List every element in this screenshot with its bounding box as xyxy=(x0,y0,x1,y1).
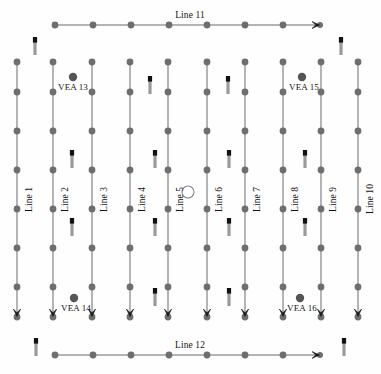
station-node[interactable] xyxy=(280,22,287,29)
station-node[interactable] xyxy=(355,206,362,213)
station-node[interactable] xyxy=(242,128,249,135)
station-node[interactable] xyxy=(165,59,172,66)
station-node[interactable] xyxy=(89,206,96,213)
station-node[interactable] xyxy=(318,206,325,213)
flag-marker[interactable] xyxy=(70,150,74,168)
station-node[interactable] xyxy=(50,128,57,135)
station-node[interactable] xyxy=(165,89,172,96)
station-node[interactable] xyxy=(50,245,57,252)
station-node[interactable] xyxy=(280,59,287,66)
station-node[interactable] xyxy=(204,245,211,252)
survey-line-vertical[interactable] xyxy=(317,59,324,321)
flag-marker[interactable] xyxy=(33,37,37,55)
station-node[interactable] xyxy=(89,284,96,291)
survey-line-horizontal[interactable] xyxy=(52,352,323,359)
survey-line-horizontal[interactable] xyxy=(52,22,323,29)
vea-marker-dot[interactable] xyxy=(296,294,304,302)
vea-marker-dot[interactable] xyxy=(70,294,78,302)
flag-marker[interactable] xyxy=(227,288,231,306)
station-node[interactable] xyxy=(355,89,362,96)
station-node[interactable] xyxy=(89,245,96,252)
station-node[interactable] xyxy=(242,284,249,291)
station-node[interactable] xyxy=(127,167,134,174)
station-node[interactable] xyxy=(128,22,135,29)
station-node[interactable] xyxy=(165,167,172,174)
survey-line-vertical[interactable] xyxy=(49,59,56,321)
station-node[interactable] xyxy=(280,89,287,96)
survey-line-vertical[interactable] xyxy=(241,59,248,321)
flag-marker[interactable] xyxy=(342,338,346,356)
station-node[interactable] xyxy=(90,22,97,29)
station-node[interactable] xyxy=(89,89,96,96)
survey-line-vertical[interactable] xyxy=(203,59,210,321)
station-node[interactable] xyxy=(14,284,21,291)
station-node[interactable] xyxy=(50,167,57,174)
flag-marker[interactable] xyxy=(70,218,74,236)
station-node[interactable] xyxy=(242,245,249,252)
station-node[interactable] xyxy=(242,89,249,96)
station-node[interactable] xyxy=(14,167,21,174)
station-node[interactable] xyxy=(204,128,211,135)
vea-marker-dot[interactable] xyxy=(69,73,77,81)
survey-line-vertical[interactable] xyxy=(164,59,171,321)
station-node[interactable] xyxy=(50,284,57,291)
station-node[interactable] xyxy=(204,167,211,174)
station-node[interactable] xyxy=(204,59,211,66)
flag-marker[interactable] xyxy=(227,150,231,168)
flag-marker[interactable] xyxy=(339,37,343,55)
station-node[interactable] xyxy=(127,245,134,252)
station-node[interactable] xyxy=(127,59,134,66)
station-node[interactable] xyxy=(14,59,21,66)
station-node[interactable] xyxy=(355,245,362,252)
station-node[interactable] xyxy=(89,128,96,135)
survey-line-vertical[interactable] xyxy=(88,59,95,321)
station-node[interactable] xyxy=(165,245,172,252)
station-node[interactable] xyxy=(52,22,59,29)
station-node[interactable] xyxy=(318,284,325,291)
flag-marker[interactable] xyxy=(227,218,231,236)
station-node[interactable] xyxy=(89,59,96,66)
flag-marker[interactable] xyxy=(303,150,307,168)
flag-marker[interactable] xyxy=(153,150,157,168)
station-node[interactable] xyxy=(204,284,211,291)
station-node[interactable] xyxy=(280,206,287,213)
station-node[interactable] xyxy=(50,89,57,96)
survey-line-vertical[interactable] xyxy=(126,59,133,321)
station-node[interactable] xyxy=(242,59,249,66)
station-node[interactable] xyxy=(355,128,362,135)
station-node[interactable] xyxy=(318,245,325,252)
station-node[interactable] xyxy=(280,167,287,174)
survey-line-vertical[interactable] xyxy=(13,59,20,321)
station-node[interactable] xyxy=(14,245,21,252)
flag-marker[interactable] xyxy=(303,218,307,236)
station-node[interactable] xyxy=(318,59,325,66)
station-node[interactable] xyxy=(355,59,362,66)
station-node[interactable] xyxy=(280,352,287,359)
station-node[interactable] xyxy=(318,128,325,135)
station-node[interactable] xyxy=(242,352,249,359)
station-node[interactable] xyxy=(166,352,173,359)
station-node[interactable] xyxy=(52,352,59,359)
survey-line-vertical[interactable] xyxy=(354,59,361,321)
station-node[interactable] xyxy=(166,22,173,29)
station-node[interactable] xyxy=(242,206,249,213)
station-node[interactable] xyxy=(128,352,135,359)
station-node[interactable] xyxy=(89,167,96,174)
station-node[interactable] xyxy=(280,245,287,252)
vea-marker-dot[interactable] xyxy=(298,73,306,81)
station-node[interactable] xyxy=(165,206,172,213)
station-node[interactable] xyxy=(355,284,362,291)
station-node[interactable] xyxy=(242,167,249,174)
flag-marker[interactable] xyxy=(148,76,152,94)
station-node[interactable] xyxy=(165,284,172,291)
station-node[interactable] xyxy=(204,89,211,96)
station-node[interactable] xyxy=(50,206,57,213)
station-node[interactable] xyxy=(14,128,21,135)
station-node[interactable] xyxy=(165,128,172,135)
station-node[interactable] xyxy=(204,206,211,213)
station-node[interactable] xyxy=(280,284,287,291)
station-node[interactable] xyxy=(280,128,287,135)
station-node[interactable] xyxy=(50,59,57,66)
station-node[interactable] xyxy=(127,128,134,135)
flag-marker[interactable] xyxy=(34,338,38,356)
